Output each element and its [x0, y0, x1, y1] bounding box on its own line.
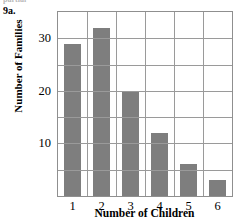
chart-figure: partial 9a. Number of Families 102030 12… [0, 0, 239, 223]
bar [151, 133, 168, 196]
y-tick-label: 10 [11, 137, 51, 150]
gridline-vertical [145, 12, 146, 196]
gridline-vertical [203, 12, 204, 196]
x-axis-title: Number of Children [53, 207, 236, 219]
gridline-vertical [87, 12, 88, 196]
plot-area [57, 11, 233, 197]
bar [93, 28, 110, 196]
y-axis-title: Number of Families [12, 0, 24, 141]
gridline-vertical [174, 12, 175, 196]
gridline-vertical [116, 12, 117, 196]
y-tick-label: 30 [11, 32, 51, 45]
bar [64, 44, 81, 196]
bar [209, 180, 226, 196]
y-tick-label: 20 [11, 85, 51, 98]
